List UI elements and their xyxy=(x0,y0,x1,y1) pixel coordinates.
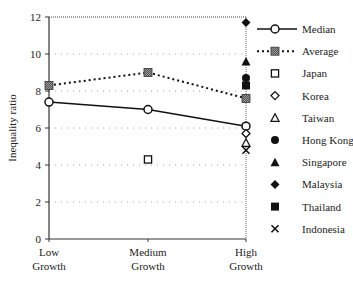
legend-label: Indonesia xyxy=(302,223,345,235)
legend-label: Thailand xyxy=(302,201,342,213)
legend-item-average: Average xyxy=(257,45,339,57)
median-marker xyxy=(45,98,53,106)
taiwan-marker xyxy=(242,139,250,147)
x-tick-label: Growth xyxy=(131,260,165,272)
y-tick-label: 0 xyxy=(36,233,42,245)
average-marker xyxy=(144,69,152,77)
chart-canvas: 024681012LowGrowthMediumGrowthHighGrowth… xyxy=(0,0,353,281)
legend-item-taiwan: Taiwan xyxy=(271,112,335,124)
legend-label: Hong Kong xyxy=(302,134,353,146)
x-tick-label: Low xyxy=(39,246,59,258)
x-tick-label: Growth xyxy=(229,260,263,272)
legend-symbol-icon xyxy=(271,92,279,100)
legend-item-korea: Korea xyxy=(271,90,329,102)
average-marker xyxy=(45,81,53,89)
y-axis-title: Inequality ratio xyxy=(6,94,18,162)
x-tick-label: Growth xyxy=(32,260,66,272)
median-marker xyxy=(144,106,152,114)
y-tick-label: 2 xyxy=(36,196,42,208)
y-tick-label: 12 xyxy=(30,11,41,23)
chart: 024681012LowGrowthMediumGrowthHighGrowth… xyxy=(0,0,353,281)
y-tick-label: 10 xyxy=(30,48,42,60)
legend-label: Japan xyxy=(302,67,328,79)
legend-label: Singapore xyxy=(302,156,347,168)
legend-item-indonesia: Indonesia xyxy=(272,223,345,235)
x-tick-label: Medium xyxy=(129,246,167,258)
thailand-marker xyxy=(242,81,250,89)
legend-symbol-icon xyxy=(271,47,279,55)
legend-label: Average xyxy=(302,45,339,57)
legend-label: Korea xyxy=(302,90,329,102)
y-tick-label: 8 xyxy=(36,85,42,97)
legend-item-thailand: Thailand xyxy=(271,201,342,213)
y-tick-label: 6 xyxy=(36,122,42,134)
legend-symbol-icon xyxy=(271,70,278,77)
legend-symbol-icon xyxy=(271,25,279,33)
malaysia-marker xyxy=(242,18,251,27)
japan-marker xyxy=(144,156,151,163)
singapore-marker xyxy=(242,57,251,66)
y-tick-label: 4 xyxy=(36,159,42,171)
hong-kong-marker xyxy=(242,74,250,82)
korea-marker xyxy=(242,130,250,138)
legend-item-japan: Japan xyxy=(271,67,327,79)
legend-symbol-icon xyxy=(271,180,280,189)
legend-symbol-icon xyxy=(271,158,280,167)
legend-symbol-icon xyxy=(271,114,279,122)
average-marker xyxy=(242,94,250,102)
legend-item-malaysia: Malaysia xyxy=(271,178,343,190)
legend-symbol-icon xyxy=(272,225,279,232)
legend-symbol-icon xyxy=(271,136,279,144)
legend-item-hong-kong: Hong Kong xyxy=(271,134,353,146)
legend-symbol-icon xyxy=(271,203,279,211)
x-tick-label: High xyxy=(235,246,258,258)
legend-label: Taiwan xyxy=(302,112,335,124)
legend-label: Malaysia xyxy=(302,178,342,190)
legend-item-singapore: Singapore xyxy=(271,156,347,168)
legend-label: Median xyxy=(302,23,336,35)
legend-item-median: Median xyxy=(257,23,336,35)
